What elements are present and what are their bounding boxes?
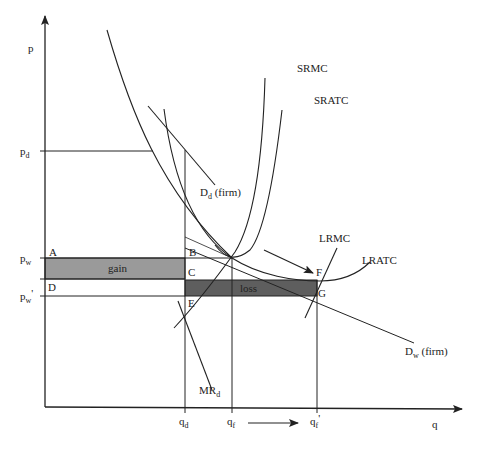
gain-label: gain — [108, 262, 127, 274]
pw-prime-label: pw' — [20, 287, 33, 305]
point-f: F — [316, 266, 322, 278]
pw-label: pw — [20, 252, 32, 267]
mrd-label: MRd — [199, 384, 220, 399]
mrd-line — [178, 301, 212, 390]
point-e: E — [188, 297, 195, 309]
dd-firm-label: Dd (firm) — [200, 186, 241, 201]
q-axis — [45, 407, 462, 409]
pd-label: pd — [20, 145, 30, 160]
qd-label: qd — [179, 415, 189, 430]
point-d: D — [48, 281, 56, 293]
qf-label: qf — [227, 415, 236, 430]
point-b: B — [189, 246, 196, 258]
steep-curve — [164, 109, 232, 258]
q-axis-label: q — [432, 418, 438, 430]
qf-prime-label: qf' — [310, 412, 320, 430]
lrmc-label: LRMC — [319, 232, 350, 244]
dw-firm-label: Dw (firm) — [405, 345, 448, 360]
loss-label: loss — [240, 282, 257, 294]
shift-arrow-upper — [264, 250, 313, 273]
srmc-label: SRMC — [297, 62, 328, 74]
p-axis-label: p — [28, 42, 34, 54]
sratc-curve — [215, 110, 282, 257]
economics-diagram: p q pd pw pw' qd qf qf' SRMC SRATC LRMC … — [0, 0, 480, 450]
sratc-label: SRATC — [314, 94, 348, 106]
point-a: A — [49, 246, 57, 258]
point-g: G — [318, 287, 326, 299]
point-c: C — [188, 266, 195, 278]
lratc-curve — [232, 258, 370, 281]
dd-firm-line — [148, 106, 215, 185]
lratc-label: LRATC — [362, 254, 397, 266]
